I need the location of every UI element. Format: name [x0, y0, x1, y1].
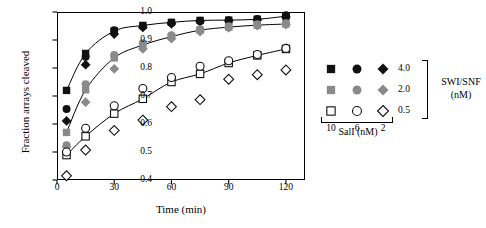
legend-marker-2-2.0[interactable] — [370, 79, 396, 100]
y-tick-label: 1.0 — [140, 7, 152, 17]
legend-row-group-label-line1: SWI/SNF — [430, 76, 486, 89]
y-axis-title: Fraction arrays cleaved — [19, 17, 31, 187]
y-tick-label: 0.7 — [140, 91, 152, 101]
x-tick-label: 120 — [279, 183, 293, 193]
data-layer — [57, 12, 305, 180]
x-tick-label: 60 — [167, 183, 177, 193]
y-tick-label: 0.8 — [140, 63, 152, 73]
legend-marker-6-2.0[interactable] — [344, 79, 370, 100]
x-axis-title: Time (min) — [57, 203, 305, 215]
x-tick-label: 30 — [109, 183, 119, 193]
x-tick-label: 0 — [55, 183, 60, 193]
legend-row-value: 4.0 — [398, 64, 410, 74]
legend-row-value: 2.0 — [398, 85, 410, 95]
y-tick-label: 0.9 — [140, 35, 152, 45]
legend-row-group-label: SWI/SNF (nM) — [430, 76, 486, 101]
y-tick-label: 0.6 — [140, 119, 152, 129]
legend-marker-2-4.0[interactable] — [370, 58, 396, 79]
legend-column-value: 2 — [381, 124, 386, 134]
legend-row-bracket — [422, 60, 428, 119]
plot-area — [57, 12, 305, 180]
y-tick-label: 0.5 — [140, 147, 152, 157]
legend-column-value: 10 — [326, 124, 336, 134]
y-tick-label: 0.4 — [140, 175, 152, 185]
legend-marker-grid — [318, 58, 396, 121]
legend-marker-10-4.0[interactable] — [318, 58, 344, 79]
x-tick-label: 90 — [224, 183, 234, 193]
legend: SWI/SNF (nM) SalI (nM) 4.02.00.51062 — [318, 58, 454, 154]
legend-marker-6-4.0[interactable] — [344, 58, 370, 79]
legend-row-group-label-line2: (nM) — [430, 89, 486, 102]
legend-column-value: 6 — [355, 124, 360, 134]
legend-row-value: 0.5 — [398, 106, 410, 116]
legend-marker-10-2.0[interactable] — [318, 79, 344, 100]
